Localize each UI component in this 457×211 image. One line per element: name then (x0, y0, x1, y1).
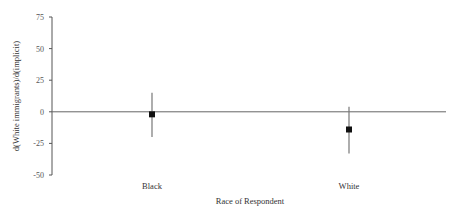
chart: 7550250-25-50 BlackWhite Race of Respond… (0, 0, 457, 211)
x-category-label: White (339, 181, 360, 191)
y-tick-label: 50 (36, 45, 44, 54)
y-tick-label: -50 (33, 171, 44, 180)
point-marker-white (346, 126, 352, 132)
y-axis-title: d(White immigrants)/d(implicit) (11, 41, 21, 151)
y-axis: 7550250-25-50 (33, 13, 52, 180)
y-tick-label: 25 (36, 76, 44, 85)
x-axis-title: Race of Respondent (216, 196, 285, 206)
y-tick-label: 0 (40, 108, 44, 117)
x-category-label: Black (142, 181, 163, 191)
y-tick-label: -25 (33, 139, 44, 148)
x-axis-category-labels: BlackWhite (142, 181, 360, 191)
point-marker-black (149, 111, 155, 117)
y-tick-label: 75 (36, 13, 44, 22)
data-points (149, 93, 352, 154)
